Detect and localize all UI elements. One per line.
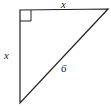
triangle-outline [20, 9, 108, 103]
right-triangle-figure: x x 6 [0, 0, 111, 111]
left-side-label: x [4, 50, 9, 61]
hypotenuse-label: 6 [61, 63, 67, 74]
triangle-drawing [0, 0, 111, 111]
right-angle-marker-icon [20, 10, 31, 21]
top-side-label: x [61, 0, 66, 10]
